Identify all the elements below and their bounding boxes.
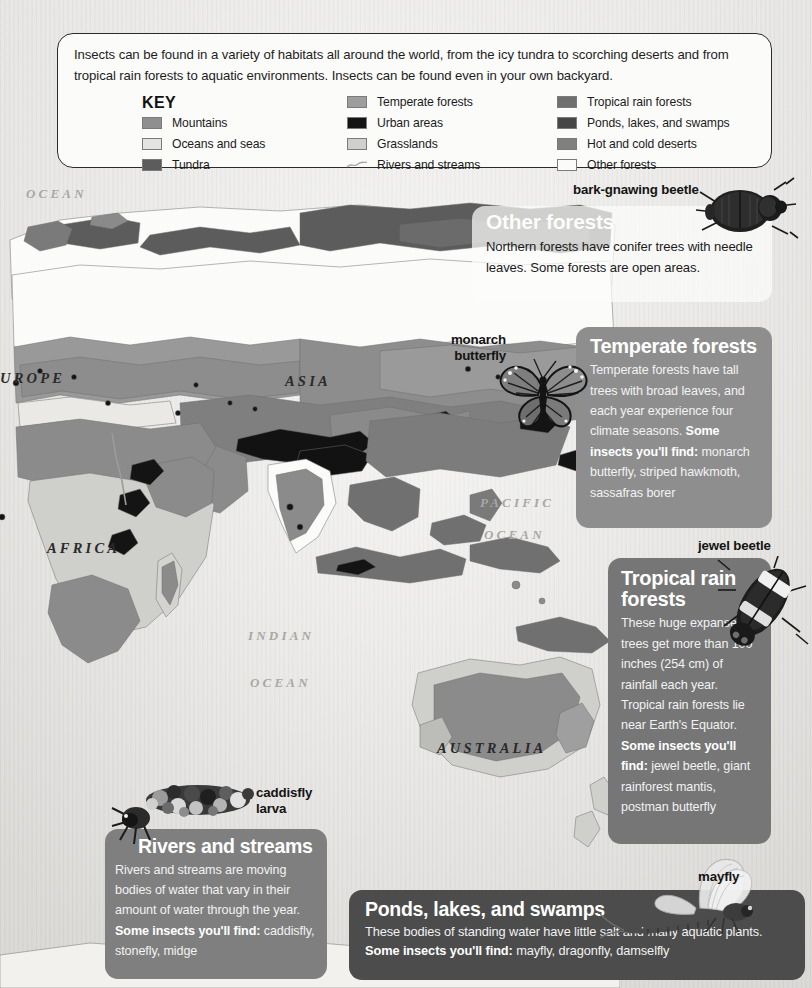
insect-label-jewel-beetle: jewel beetle (698, 538, 771, 554)
temperate-body-part1: Temperate forests have tall trees with b… (590, 363, 745, 438)
key-column-3: Tropical rain forests Ponds, lakes, and … (557, 92, 755, 176)
rivers-body-part1: Rivers and streams are moving bodies of … (115, 863, 300, 918)
color-swatch-urban-areas (347, 117, 367, 129)
insect-label-bark-gnawing-beetle: bark-gnawing beetle (573, 182, 699, 198)
ocean-label-arctic: OCEAN (26, 186, 87, 202)
key-item-other-forests: Other forests (557, 155, 755, 176)
key-item-tundra: Tundra (142, 155, 347, 176)
color-swatch-grasslands (347, 138, 367, 150)
key-label-grasslands: Grasslands (377, 137, 438, 151)
key-grid: KEY Mountains Oceans and seas Tundra Tem… (74, 92, 755, 176)
key-item-mountains: Mountains (142, 113, 347, 134)
panel-temperate-forests-title: Temperate forests (576, 327, 772, 357)
bark-gnawing-beetle-image (686, 176, 806, 244)
key-item-rivers-and-streams: Rivers and streams (347, 155, 557, 176)
color-swatch-other-forests (557, 159, 577, 171)
key-column-2: Temperate forests Urban areas Grasslands… (347, 92, 557, 176)
key-item-ponds-lakes-swamps: Ponds, lakes, and swamps (557, 113, 755, 134)
color-swatch-tundra (142, 159, 162, 171)
panel-temperate-forests: Temperate forests Temperate forests have… (576, 327, 772, 528)
key-label-tundra: Tundra (172, 158, 210, 172)
ponds-body-bold: Some insects you'll find: (365, 943, 513, 958)
insect-label-monarch-butterfly: monarch butterfly (440, 332, 506, 363)
caddisfly-larva-image (108, 778, 268, 858)
color-swatch-ponds-lakes-swamps (557, 117, 577, 129)
ocean-label-indian2: OCEAN (250, 675, 311, 691)
ocean-label-pacific: PACIFIC (480, 495, 554, 511)
insect-label-caddisfly-larva: caddisfly larva (256, 785, 312, 816)
key-label-hot-and-cold-deserts: Hot and cold deserts (587, 137, 697, 151)
key-item-hot-and-cold-deserts: Hot and cold deserts (557, 134, 755, 155)
key-label-ponds-lakes-swamps: Ponds, lakes, and swamps (587, 116, 730, 130)
intro-paragraph: Insects can be found in a variety of hab… (74, 45, 755, 87)
ocean-label-pacific2: OCEAN (484, 527, 545, 543)
key-item-oceans-and-seas: Oceans and seas (142, 134, 347, 155)
key-item-temperate-forests: Temperate forests (347, 92, 557, 113)
key-label-mountains: Mountains (172, 116, 227, 130)
key-label-rivers-and-streams: Rivers and streams (377, 158, 480, 172)
continent-europe: UROPE (0, 370, 65, 387)
key-item-tropical-rain-forests: Tropical rain forests (557, 92, 755, 113)
continent-australia: AUSTRALIA (437, 740, 546, 757)
monarch-butterfly-image (494, 355, 590, 435)
panel-rivers-and-streams-body: Rivers and streams are moving bodies of … (105, 857, 327, 962)
key-label-tropical-rain-forests: Tropical rain forests (587, 95, 691, 109)
key-column-1: KEY Mountains Oceans and seas Tundra (142, 92, 347, 176)
ocean-label-indian: INDIAN (248, 628, 314, 644)
jewel-beetle-image (716, 556, 812, 656)
insect-label-mayfly: mayfly (698, 869, 739, 885)
key-legend-card: Insects can be found in a variety of hab… (57, 33, 772, 168)
key-label-other-forests: Other forests (587, 158, 656, 172)
key-label-temperate-forests: Temperate forests (377, 95, 473, 109)
key-item-urban-areas: Urban areas (347, 113, 557, 134)
color-swatch-mountains (142, 117, 162, 129)
color-swatch-hot-and-cold-deserts (557, 138, 577, 150)
key-title: KEY (142, 92, 347, 113)
continent-africa: AFRICA (47, 540, 120, 557)
key-label-urban-areas: Urban areas (377, 116, 443, 130)
color-swatch-oceans (142, 138, 162, 150)
color-swatch-temperate-forests (347, 96, 367, 108)
river-line-icon (347, 159, 367, 171)
rivers-body-bold: Some insects you'll find: (115, 924, 260, 938)
continent-asia: ASIA (285, 373, 331, 390)
key-label-oceans-and-seas: Oceans and seas (172, 137, 265, 151)
key-item-grasslands: Grasslands (347, 134, 557, 155)
color-swatch-tropical-rain-forests (557, 96, 577, 108)
mayfly-image (600, 856, 790, 956)
panel-temperate-forests-body: Temperate forests have tall trees with b… (576, 357, 772, 503)
